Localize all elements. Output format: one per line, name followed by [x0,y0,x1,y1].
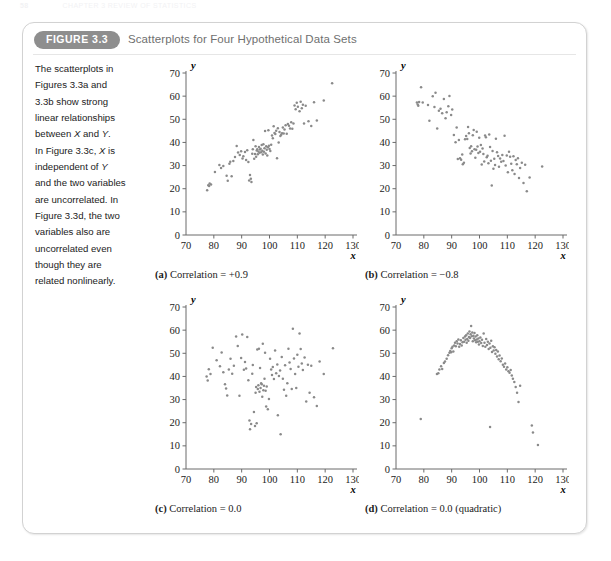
svg-text:x: x [349,250,355,261]
panel-c-letter: (c) [155,503,167,514]
svg-text:80: 80 [419,474,430,485]
plot-grid: 010203040506070708090100110120130yx (a) … [153,59,581,525]
svg-text:70: 70 [380,302,391,313]
svg-text:70: 70 [170,68,181,79]
svg-text:60: 60 [170,91,181,102]
svg-text:40: 40 [170,371,181,382]
svg-text:20: 20 [380,183,391,194]
svg-text:50: 50 [170,114,181,125]
svg-text:40: 40 [170,137,181,148]
svg-text:70: 70 [391,474,402,485]
caption-line: The scatterplots in [35,61,155,77]
svg-text:0: 0 [175,230,180,241]
page-running-head: 58CHAPTER 3 REVIEW OF STATISTICS [20,2,196,9]
svg-text:80: 80 [209,240,220,251]
svg-text:80: 80 [209,474,220,485]
svg-text:0: 0 [385,464,390,475]
svg-text:120: 120 [527,474,543,485]
svg-text:110: 110 [500,240,515,251]
svg-text:100: 100 [472,474,488,485]
caption-line: variables also are [35,224,155,240]
svg-text:y: y [189,294,196,305]
svg-text:0: 0 [385,230,390,241]
svg-text:x: x [559,250,565,261]
svg-text:40: 40 [380,137,391,148]
svg-text:10: 10 [380,440,391,451]
svg-text:60: 60 [170,325,181,336]
svg-text:30: 30 [170,394,181,405]
page-header-text: CHAPTER 3 REVIEW OF STATISTICS [63,2,197,9]
svg-text:70: 70 [380,68,391,79]
svg-text:30: 30 [380,394,391,405]
figure-header-divider [33,54,576,55]
panel-d-text: Correlation = 0.0 (quadratic) [380,503,501,514]
scatterplot-c: 010203040506070708090100110120130yx [153,293,359,501]
figure-badge: FIGURE 3.3 [34,31,120,49]
svg-text:90: 90 [446,474,457,485]
svg-text:120: 120 [317,240,333,251]
svg-text:70: 70 [391,240,402,251]
svg-text:20: 20 [170,417,181,428]
svg-text:y: y [189,60,196,71]
panel-c-text: Correlation = 0.0 [169,503,241,514]
svg-text:80: 80 [419,240,430,251]
caption-line: uncorrelated even [35,241,155,257]
svg-text:y: y [399,60,406,71]
caption-line: Figures 3.3a and [35,77,155,93]
svg-text:30: 30 [170,160,181,171]
panel-a-text: Correlation = +0.9 [170,269,248,280]
scatterplot-b: 010203040506070708090100110120130yx [363,59,569,267]
page-number: 58 [20,2,29,9]
svg-text:70: 70 [170,302,181,313]
scatterplot-d: 010203040506070708090100110120130yx [363,293,569,501]
panel-d-caption: (d) Correlation = 0.0 (quadratic) [365,503,501,514]
caption-line: independent of Y [35,159,155,175]
svg-text:110: 110 [290,240,305,251]
svg-text:110: 110 [290,474,305,485]
svg-text:x: x [349,484,355,495]
svg-text:10: 10 [170,206,181,217]
caption-line: between X and Y. [35,126,155,142]
panel-c: 010203040506070708090100110120130yx (c) … [153,293,359,525]
caption-line: Figure 3.3d, the two [35,208,155,224]
svg-text:120: 120 [527,240,543,251]
svg-text:90: 90 [236,240,247,251]
svg-text:20: 20 [380,417,391,428]
caption-line: In Figure 3.3c, X is [35,143,155,159]
panel-c-caption: (c) Correlation = 0.0 [155,503,241,514]
caption-line: though they are [35,257,155,273]
panel-b-caption: (b) Correlation = −0.8 [365,269,459,280]
svg-text:x: x [559,484,565,495]
svg-text:100: 100 [472,240,488,251]
svg-text:90: 90 [446,240,457,251]
svg-text:60: 60 [380,91,391,102]
panel-d: 010203040506070708090100110120130yx (d) … [363,293,569,525]
svg-text:120: 120 [317,474,333,485]
svg-text:50: 50 [170,348,181,359]
svg-text:10: 10 [170,440,181,451]
caption-line: and the two variables [35,175,155,191]
panel-a: 010203040506070708090100110120130yx (a) … [153,59,359,291]
figure-title: Scatterplots for Four Hypothetical Data … [128,33,357,45]
figure-header: FIGURE 3.3 Scatterplots for Four Hypothe… [23,23,586,53]
svg-text:20: 20 [170,183,181,194]
svg-text:70: 70 [181,474,192,485]
svg-text:90: 90 [236,474,247,485]
svg-text:110: 110 [500,474,515,485]
svg-text:50: 50 [380,114,391,125]
scatterplot-a: 010203040506070708090100110120130yx [153,59,359,267]
panel-b: 010203040506070708090100110120130yx (b) … [363,59,569,291]
svg-text:100: 100 [262,240,278,251]
figure-caption: The scatterplots inFigures 3.3a and3.3b … [35,61,155,290]
caption-line: 3.3b show strong [35,94,155,110]
svg-text:0: 0 [175,464,180,475]
caption-line: linear relationships [35,110,155,126]
svg-text:30: 30 [380,160,391,171]
svg-text:60: 60 [380,325,391,336]
panel-d-letter: (d) [365,503,378,514]
panel-a-caption: (a) Correlation = +0.9 [155,269,248,280]
svg-text:70: 70 [181,240,192,251]
panel-b-letter: (b) [365,269,378,280]
svg-text:100: 100 [262,474,278,485]
svg-text:y: y [399,294,406,305]
